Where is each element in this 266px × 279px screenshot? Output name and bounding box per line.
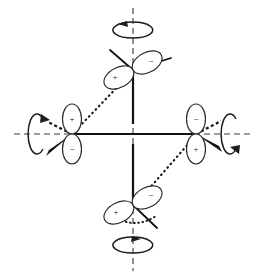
sigma-bond-group xyxy=(72,70,196,205)
right-orbital-phase-negative: − xyxy=(193,114,198,124)
forming-bond-group xyxy=(79,77,190,199)
axis-group xyxy=(14,8,254,271)
rotation-arrow-group xyxy=(28,21,240,253)
rotation-arrow-top-head xyxy=(118,21,128,27)
left-orbital-phase-negative: − xyxy=(69,144,74,154)
top-orbital-phase-negative: − xyxy=(148,56,153,66)
bottom-orbital-phase-negative: − xyxy=(148,190,153,200)
left-orbital-phase-positive: + xyxy=(69,114,74,124)
orbital-diagram-figure: Cyclic orbital array with rotation arrow… xyxy=(0,0,266,279)
bottom-orbital-phase-positive: + xyxy=(113,207,118,217)
top-orbital-phase-positive: + xyxy=(112,72,117,82)
top-node-group: + − xyxy=(100,46,171,94)
rotation-arrow-left-head xyxy=(40,114,50,123)
rotation-arrow-right-head xyxy=(230,145,240,154)
orbital-diagram-canvas: Cyclic orbital array with rotation arrow… xyxy=(0,0,266,279)
right-orbital-phase-positive: + xyxy=(193,144,198,154)
